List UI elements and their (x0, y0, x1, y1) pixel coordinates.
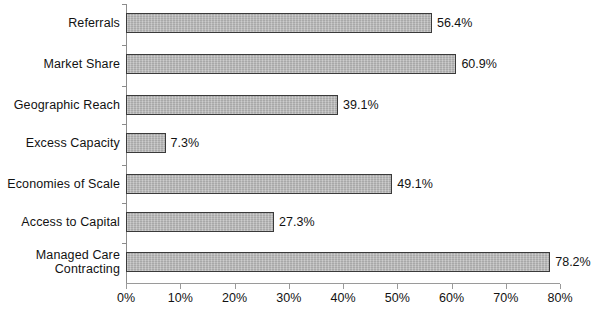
category-tick (122, 45, 127, 46)
bar (126, 133, 166, 153)
category-label: Managed CareContracting (0, 248, 120, 276)
category-label: Excess Capacity (0, 136, 120, 150)
value-tick-label: 80% (547, 291, 572, 305)
category-tick (122, 4, 127, 5)
bar (126, 95, 338, 115)
category-label-line: Referrals (0, 16, 120, 30)
value-tick (180, 284, 181, 289)
category-label-line: Managed Care (0, 248, 120, 262)
category-label-line: Market Share (0, 57, 120, 71)
category-label: Market Share (0, 57, 120, 71)
bar-value-label: 78.2% (555, 255, 590, 269)
bar-value-label: 60.9% (461, 57, 496, 71)
category-tick (122, 203, 127, 204)
plot-area: 56.4%60.9%39.1%7.3%49.1%27.3%78.2% 0%10%… (126, 0, 588, 284)
category-label-line: Geographic Reach (0, 98, 120, 112)
bar (126, 252, 550, 272)
value-tick (560, 284, 561, 289)
value-tick (235, 284, 236, 289)
bar (126, 54, 456, 74)
value-tick-label: 0% (117, 291, 135, 305)
bar (126, 212, 274, 232)
bar-value-label: 27.3% (279, 215, 314, 229)
bar-value-label: 39.1% (343, 98, 378, 112)
value-tick-label: 10% (168, 291, 193, 305)
value-tick-label: 60% (439, 291, 464, 305)
category-label-line: Economies of Scale (0, 177, 120, 191)
bar-value-label: 49.1% (397, 177, 432, 191)
value-tick (343, 284, 344, 289)
category-tick (122, 86, 127, 87)
category-tick (122, 124, 127, 125)
bar-value-label: 7.3% (171, 136, 200, 150)
category-label: Referrals (0, 16, 120, 30)
value-tick (452, 284, 453, 289)
bar (126, 13, 432, 33)
bar-value-label: 56.4% (437, 16, 472, 30)
category-label: Economies of Scale (0, 177, 120, 191)
value-tick (289, 284, 290, 289)
value-tick-label: 30% (276, 291, 301, 305)
value-tick (126, 284, 127, 289)
category-label-line: Contracting (0, 262, 120, 276)
value-tick-label: 50% (385, 291, 410, 305)
category-tick (122, 165, 127, 166)
category-label-line: Excess Capacity (0, 136, 120, 150)
category-label: Access to Capital (0, 215, 120, 229)
category-label: Geographic Reach (0, 98, 120, 112)
value-tick-label: 20% (222, 291, 247, 305)
value-tick-label: 40% (330, 291, 355, 305)
bar (126, 174, 392, 194)
value-tick-label: 70% (493, 291, 518, 305)
value-tick (397, 284, 398, 289)
category-tick (122, 243, 127, 244)
value-tick (506, 284, 507, 289)
category-label-line: Access to Capital (0, 215, 120, 229)
